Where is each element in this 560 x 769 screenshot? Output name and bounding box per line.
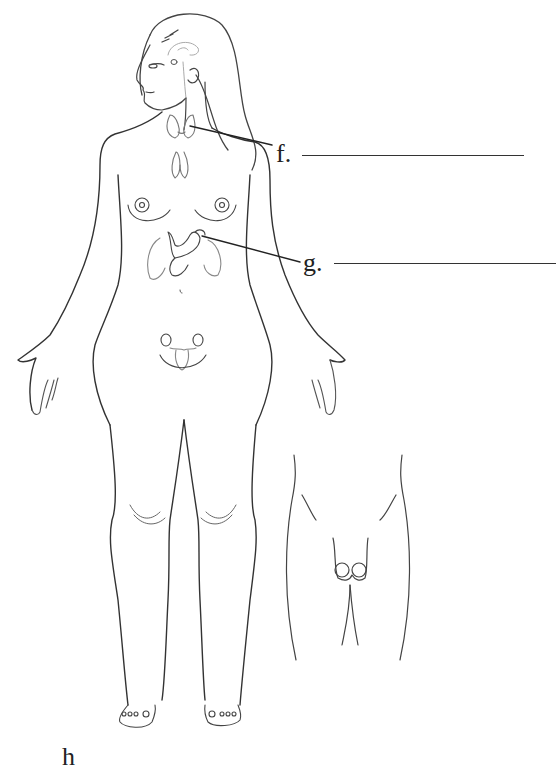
hair xyxy=(140,14,256,170)
navel xyxy=(180,290,182,293)
chest xyxy=(128,198,236,221)
pituitary-pineal xyxy=(168,42,199,98)
label-f: f. xyxy=(276,141,291,167)
pancreas-kidneys xyxy=(148,230,221,279)
thymus-gland xyxy=(172,152,188,178)
feet xyxy=(119,705,240,727)
body-outline xyxy=(18,112,345,705)
label-h: h xyxy=(62,744,75,769)
leader-line-f xyxy=(190,126,272,145)
answer-blank-g[interactable] xyxy=(334,263,556,264)
ovaries-uterus xyxy=(160,334,206,370)
answer-blank-f[interactable] xyxy=(302,155,524,156)
knees xyxy=(130,505,236,524)
label-g: g. xyxy=(303,250,323,276)
male-pelvis-inset xyxy=(286,455,409,660)
